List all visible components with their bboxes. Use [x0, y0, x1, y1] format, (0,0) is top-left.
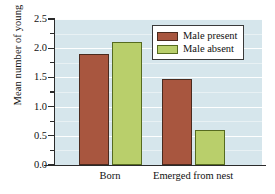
grid-line [55, 19, 262, 20]
bar-absent-1 [195, 130, 225, 165]
y-axis-tick-minor [50, 33, 54, 34]
y-axis-tick-major [48, 48, 54, 49]
x-axis-line [44, 165, 266, 166]
y-axis-tick-label: 0.5 [23, 131, 47, 141]
bar-absent-0 [112, 42, 142, 165]
legend-label-male-present: Male present [183, 31, 238, 41]
legend-label-male-absent: Male absent [183, 44, 234, 54]
y-axis-tick-major [48, 164, 54, 165]
y-axis-tick-label: 2.0 [23, 43, 47, 53]
legend: Male present Male absent [152, 25, 244, 60]
y-axis-tick-major [48, 135, 54, 136]
legend-item-male-absent: Male absent [157, 43, 238, 55]
y-axis-tick-label: 1.0 [23, 102, 47, 112]
legend-swatch-male-absent [157, 45, 178, 54]
legend-item-male-present: Male present [157, 30, 238, 42]
x-axis-category-born: Born [100, 170, 121, 181]
y-axis-line [54, 18, 55, 166]
y-axis-tick-minor [50, 91, 54, 92]
legend-swatch-male-present [157, 32, 178, 41]
y-axis-tick-major [48, 77, 54, 78]
y-axis-tick-minor [50, 150, 54, 151]
bar-present-0 [79, 54, 109, 165]
y-axis-tick-labels: 0.00.51.01.52.02.5 [17, 0, 47, 194]
y-axis-tick-major [48, 18, 54, 19]
x-axis-category-emerged-from-nest: Emerged from nest [153, 170, 233, 181]
bar-present-1 [162, 79, 192, 165]
bar-chart-figure: Mean number of young 0.00.51.01.52.02.5 … [0, 0, 275, 194]
y-axis-tick-label: 2.5 [23, 14, 47, 24]
y-axis-tick-major [48, 106, 54, 107]
y-axis-tick-minor [50, 62, 54, 63]
y-axis-tick-label: 1.5 [23, 72, 47, 82]
y-axis-tick-minor [50, 121, 54, 122]
